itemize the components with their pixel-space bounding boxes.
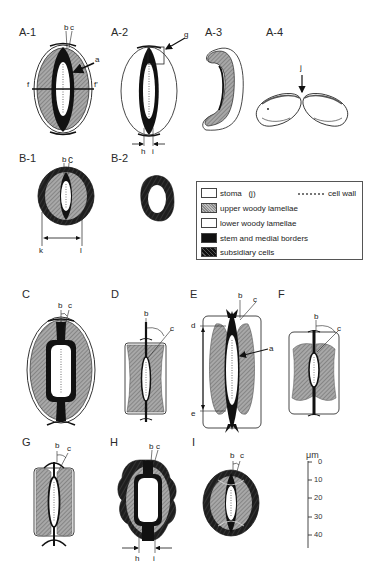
label-h: h	[135, 554, 139, 563]
panel-label-h: H	[110, 436, 118, 448]
panel-b1	[38, 163, 94, 246]
scale-tick-30: 30	[314, 512, 322, 521]
panel-g	[34, 451, 74, 546]
label-c: c	[240, 451, 244, 460]
label-a: a	[269, 344, 274, 353]
scale-tick-10: 10	[314, 475, 322, 484]
panel-label-c: C	[22, 288, 30, 300]
label-i: i	[152, 147, 154, 156]
panel-f	[289, 320, 339, 416]
label-g: g	[184, 30, 188, 39]
label-b: b	[58, 301, 63, 310]
label-b: b	[149, 442, 154, 451]
legend: stoma (j) cell wall upper woody lamellae…	[196, 181, 363, 260]
label-c: c	[68, 301, 72, 310]
label-j: j	[299, 63, 302, 72]
label-e: e	[191, 409, 196, 418]
legend-item-subsidiary: subsidiary cells	[201, 246, 274, 258]
panel-d	[125, 318, 171, 422]
panel-c	[27, 310, 95, 425]
legend-label: subsidiary cells	[220, 248, 274, 257]
panel-h	[118, 450, 176, 553]
legend-label: upper woody lamellae	[220, 204, 298, 213]
label-k: k	[39, 246, 44, 255]
panel-label-g: G	[22, 436, 31, 448]
stoma-swatch-icon	[201, 188, 217, 198]
scale-bar	[308, 461, 312, 548]
label-a: a	[95, 55, 100, 64]
panel-label-b2: B-2	[111, 152, 128, 164]
panel-label-i: I	[192, 436, 195, 448]
panel-a2	[121, 38, 185, 146]
label-b: b	[230, 451, 235, 460]
label-b: b	[62, 155, 67, 164]
label-c: c	[253, 295, 257, 304]
panel-label-f: F	[278, 288, 285, 300]
lower-lamellae-swatch-icon	[201, 218, 217, 228]
legend-item-cell-wall: cell wall	[298, 189, 356, 198]
panel-e	[200, 300, 268, 433]
legend-label: cell wall	[328, 189, 356, 198]
legend-item-upper-lamellae: upper woody lamellae	[201, 202, 298, 214]
label-d: d	[191, 321, 195, 330]
label-b: b	[144, 309, 149, 318]
label-c: c	[337, 324, 341, 333]
scale-unit: μm	[306, 450, 319, 460]
label-c: c	[156, 442, 160, 451]
panel-label-a1: A-1	[19, 26, 36, 38]
panel-b2	[141, 176, 174, 221]
upper-lamellae-swatch-icon	[201, 203, 217, 213]
label-h: h	[141, 147, 145, 156]
scale-tick-0: 0	[318, 457, 322, 466]
cell-wall-dotted-line-icon	[298, 193, 324, 195]
label-b: b	[55, 441, 60, 450]
panel-label-d: D	[111, 288, 119, 300]
panel-label-a3: A-3	[205, 26, 222, 38]
legend-item-stem: stem and medial borders	[201, 232, 308, 244]
legend-item-stoma: stoma (j)	[201, 187, 256, 199]
label-l: l	[80, 246, 82, 255]
panel-a1	[32, 31, 94, 135]
panel-label-e: E	[190, 288, 197, 300]
panel-a3	[203, 48, 244, 130]
label-b: b	[314, 312, 319, 321]
stem-swatch-icon	[201, 233, 217, 243]
label-i: i	[153, 554, 155, 563]
legend-label: stoma (j)	[220, 189, 256, 198]
panel-label-b1: B-1	[19, 152, 36, 164]
panel-a4	[256, 75, 347, 126]
label-c: c	[70, 23, 74, 32]
label-c: c	[67, 444, 71, 453]
panel-i	[203, 461, 259, 536]
label-b: b	[238, 291, 243, 300]
subsidiary-swatch-icon	[201, 247, 217, 257]
scale-tick-20: 20	[314, 493, 322, 502]
label-b: b	[64, 23, 69, 32]
legend-label: lower woody lamellae	[220, 219, 296, 228]
panel-label-a4: A-4	[266, 26, 283, 38]
legend-label: stem and medial borders	[220, 234, 308, 243]
scale-tick-40: 40	[314, 530, 322, 539]
legend-item-lower-lamellae: lower woody lamellae	[201, 217, 296, 229]
panel-label-a2: A-2	[111, 26, 128, 38]
label-c: c	[170, 324, 174, 333]
label-c: c	[68, 154, 73, 165]
label-f: f	[27, 80, 30, 89]
label-f-prime: f'	[94, 80, 98, 89]
